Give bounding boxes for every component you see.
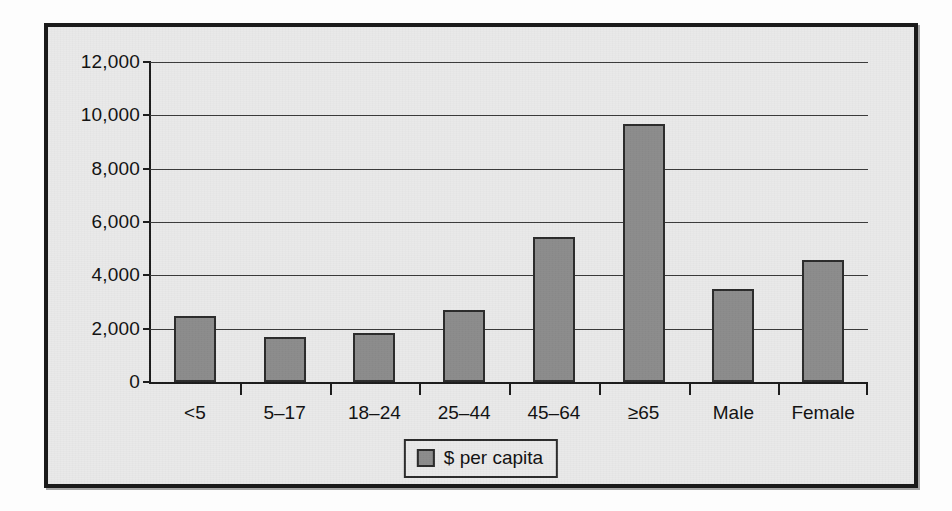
y-axis-tick-label: 6,000 bbox=[91, 211, 140, 233]
x-axis-tick-label: 45–64 bbox=[527, 402, 580, 424]
bar bbox=[174, 316, 216, 382]
x-axis-tick-label: 25–44 bbox=[438, 402, 491, 424]
y-axis-tick-label: 10,000 bbox=[81, 104, 140, 126]
x-axis-tick-mark bbox=[240, 382, 242, 395]
y-axis-tick-label: 12,000 bbox=[81, 51, 140, 73]
x-axis-tick-mark bbox=[509, 382, 511, 395]
y-axis-tick-label: 2,000 bbox=[91, 318, 140, 340]
x-axis-tick-label: Female bbox=[791, 402, 854, 424]
x-axis-tick-mark bbox=[866, 382, 868, 395]
bar-series bbox=[150, 62, 868, 382]
y-axis-tick-label: 4,000 bbox=[91, 264, 140, 286]
x-axis-tick-mark bbox=[419, 382, 421, 395]
x-axis-tick-label: Male bbox=[713, 402, 754, 424]
x-axis-tick-label: 5–17 bbox=[263, 402, 305, 424]
bar bbox=[802, 260, 844, 382]
page-background: 02,0004,0006,0008,00010,00012,000 <55–17… bbox=[0, 0, 952, 511]
plot-area: <55–1718–2425–4445–64≥65MaleFemale bbox=[150, 62, 868, 382]
x-axis-ticks bbox=[150, 382, 868, 396]
bar bbox=[623, 124, 665, 382]
x-axis-tick-label: 18–24 bbox=[348, 402, 401, 424]
bar bbox=[712, 289, 754, 382]
chart-legend: $ per capita bbox=[404, 439, 558, 478]
y-axis-tick-label: 8,000 bbox=[91, 158, 140, 180]
bar bbox=[533, 237, 575, 382]
bar bbox=[264, 337, 306, 382]
x-axis-tick-label: ≥65 bbox=[628, 402, 660, 424]
x-axis-tick-mark bbox=[778, 382, 780, 395]
x-axis-labels: <55–1718–2425–4445–64≥65MaleFemale bbox=[150, 402, 868, 432]
x-axis-tick-label: <5 bbox=[184, 402, 206, 424]
y-axis-labels: 02,0004,0006,0008,00010,00012,000 bbox=[48, 27, 140, 484]
y-axis-tick-label: 0 bbox=[129, 371, 140, 393]
x-axis-tick-mark bbox=[599, 382, 601, 395]
x-axis-tick-mark bbox=[330, 382, 332, 395]
legend-swatch-icon bbox=[417, 449, 435, 467]
bar bbox=[443, 310, 485, 382]
x-axis-tick-mark bbox=[689, 382, 691, 395]
bar bbox=[353, 333, 395, 382]
chart-frame: 02,0004,0006,0008,00010,00012,000 <55–17… bbox=[44, 23, 918, 488]
legend-entry-label: $ per capita bbox=[444, 447, 543, 469]
